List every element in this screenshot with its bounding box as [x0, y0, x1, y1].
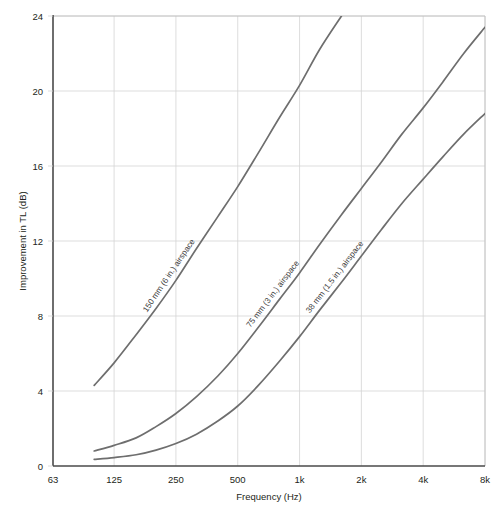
tl-improvement-line-chart: 04812162024 631252505001k2k4k8k 150 mm (… — [0, 0, 498, 524]
y-tick-label-16: 16 — [32, 161, 43, 172]
x-tick-label-500: 500 — [230, 474, 246, 485]
y-tick-label-4: 4 — [38, 386, 43, 397]
y-tick-label-24: 24 — [32, 11, 43, 22]
y-tick-label-0: 0 — [38, 461, 43, 472]
x-tick-label-2k: 2k — [356, 474, 366, 485]
y-axis-title: Improvement in TL (dB) — [17, 191, 28, 290]
chart-container: 04812162024 631252505001k2k4k8k 150 mm (… — [0, 0, 498, 524]
y-tick-label-20: 20 — [32, 86, 43, 97]
x-tick-label-250: 250 — [168, 474, 184, 485]
x-axis-title: Frequency (Hz) — [236, 491, 301, 502]
x-tick-label-125: 125 — [106, 474, 122, 485]
x-tick-label-63: 63 — [48, 474, 59, 485]
y-tick-label-8: 8 — [38, 311, 43, 322]
y-tick-label-12: 12 — [32, 236, 43, 247]
x-tick-label-8k: 8k — [480, 474, 490, 485]
x-tick-label-4k: 4k — [418, 474, 428, 485]
x-tick-label-1k: 1k — [295, 474, 305, 485]
